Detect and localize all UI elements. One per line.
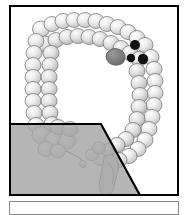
lesion-marker	[106, 49, 125, 66]
descending-colon	[109, 50, 163, 164]
screenshot-root	[0, 0, 189, 215]
colon-illustration	[11, 7, 177, 194]
marker-dot-2	[127, 54, 135, 62]
marker-dot-1	[130, 40, 140, 50]
marker-dot-3	[138, 54, 148, 64]
caption-box	[9, 201, 179, 215]
figure-panel	[9, 5, 179, 196]
